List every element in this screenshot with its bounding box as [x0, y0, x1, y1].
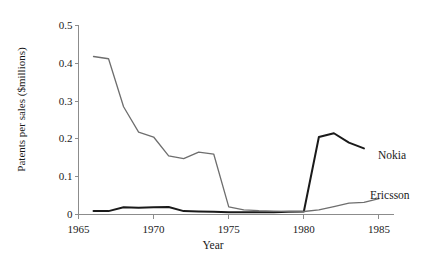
x-tick-label: 1965 — [49, 224, 109, 235]
series-line-nokia — [94, 133, 364, 212]
y-tick-label: 0.1 — [31, 171, 73, 182]
x-axis-label: Year — [0, 240, 426, 252]
series-group — [94, 57, 379, 213]
x-tick-label: 1970 — [124, 224, 184, 235]
x-tick-label: 1980 — [274, 224, 334, 235]
series-label-ericsson: Ericsson — [370, 190, 410, 202]
y-tick-label: 0.5 — [31, 20, 73, 31]
y-tick-label: 0.4 — [31, 58, 73, 69]
y-tick-label: 0.2 — [31, 133, 73, 144]
x-tick-label: 1975 — [199, 224, 259, 235]
y-tick-label: 0 — [31, 209, 73, 220]
chart-figure: 00.10.20.30.40.5 19651970197519801985 No… — [0, 0, 426, 267]
y-axis-label: Patents per sales ($millions) — [16, 25, 27, 195]
series-label-nokia: Nokia — [378, 150, 406, 162]
y-tick-label: 0.3 — [31, 96, 73, 107]
x-tick-label: 1985 — [349, 224, 409, 235]
axes-group — [75, 26, 395, 219]
